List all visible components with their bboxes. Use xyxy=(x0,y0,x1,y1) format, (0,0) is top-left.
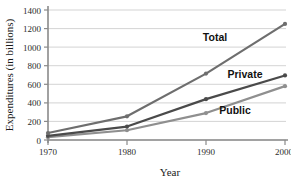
y-tick-label-200: 200 xyxy=(28,117,42,127)
data-point-private-2000 xyxy=(283,73,287,77)
data-point-total-1980 xyxy=(125,114,129,118)
series-annotation-total: Total xyxy=(203,31,227,43)
x-tick-label-1990: 1990 xyxy=(197,147,216,157)
data-point-total-1970 xyxy=(46,131,50,135)
data-point-private-1990 xyxy=(204,97,208,101)
chart-canvas: 1400 1200 1000 800 600 400 200 0 1970 19… xyxy=(0,0,291,182)
x-tick-label-1980: 1980 xyxy=(118,147,137,157)
data-point-total-2000 xyxy=(283,22,287,26)
y-tick-label-1400: 1400 xyxy=(23,6,42,16)
series-annotation-public: Public xyxy=(219,104,251,116)
line-chart-figure: 1400 1200 1000 800 600 400 200 0 1970 19… xyxy=(0,0,291,182)
y-tick-label-800: 800 xyxy=(28,61,42,71)
data-point-public-2000 xyxy=(283,84,287,88)
y-tick-label-1000: 1000 xyxy=(23,43,42,53)
x-tick-label-1970: 1970 xyxy=(39,147,58,157)
series-annotation-private: Private xyxy=(227,68,262,80)
y-tick-label-400: 400 xyxy=(28,98,42,108)
y-tick-label-600: 600 xyxy=(28,80,42,90)
x-tick-label-2000: 2000 xyxy=(275,147,291,157)
data-point-total-1990 xyxy=(204,72,208,76)
data-point-public-1990 xyxy=(204,111,208,115)
x-axis-title: Year xyxy=(160,166,181,178)
y-axis-title: Expenditures (in billions) xyxy=(3,18,16,131)
y-tick-label-0: 0 xyxy=(37,136,42,146)
data-point-public-1980 xyxy=(125,128,129,132)
y-tick-label-1200: 1200 xyxy=(23,24,42,34)
data-point-private-1980 xyxy=(125,124,129,128)
